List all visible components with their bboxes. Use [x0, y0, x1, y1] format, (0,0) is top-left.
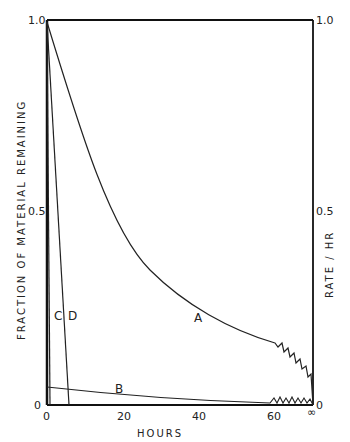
x-tick-20: 20: [117, 410, 131, 423]
label-a: A: [194, 311, 203, 325]
x-axis-label: HOURS: [137, 428, 183, 439]
x-tick-0: 0: [43, 410, 50, 423]
label-d: D: [68, 309, 77, 323]
y-tick-right-05: 0.5: [316, 205, 334, 218]
y-tick-left-1: 1.0: [28, 14, 46, 27]
label-c: C: [54, 309, 62, 323]
y-axis-label-right: RATE / HR: [324, 231, 335, 298]
curve-b: [47, 387, 313, 405]
y-tick-right-0: 0: [316, 399, 323, 412]
curve-a: [47, 22, 313, 405]
chart: 1.0 0.5 0 1.0 0.5 0 0 20 40 60 ∞ HOURS F…: [0, 0, 350, 442]
label-b: B: [115, 382, 123, 396]
y-tick-left-0: 0: [34, 399, 41, 412]
x-tick-40: 40: [192, 410, 206, 423]
x-tick-60: 60: [267, 410, 281, 423]
curve-d: [47, 22, 69, 405]
y-axis-label-left: FRACTION OF MATERIAL REMAINING: [16, 100, 27, 340]
y-tick-right-1: 1.0: [316, 14, 334, 27]
x-tick-infinity: ∞: [307, 406, 316, 419]
y-tick-left-05: 0.5: [28, 205, 46, 218]
